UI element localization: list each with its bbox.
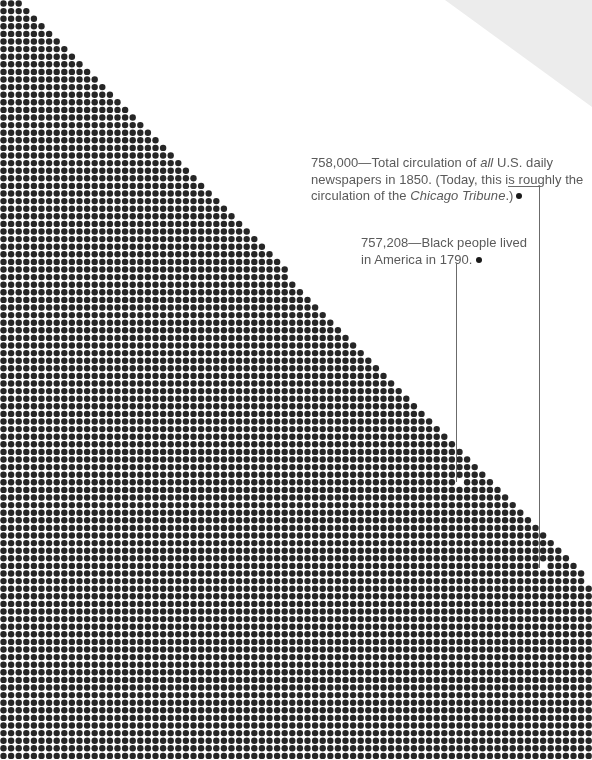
annotation-black-population-1790: 757,208—Black people lived in America in… bbox=[361, 235, 531, 268]
leader-line-1-horizontal bbox=[508, 186, 540, 187]
annotation-number: 758,000 bbox=[311, 155, 358, 170]
annotation-bullet bbox=[516, 193, 522, 199]
annotation-number: 757,208 bbox=[361, 235, 408, 250]
annotation-newspaper-circulation: 758,000—Total circulation of all U.S. da… bbox=[311, 155, 592, 205]
leader-line-2-vertical bbox=[456, 263, 457, 482]
leader-line-1-vertical bbox=[539, 186, 540, 568]
annotation-bullet bbox=[476, 257, 482, 263]
dot-matrix-chart bbox=[0, 0, 592, 760]
